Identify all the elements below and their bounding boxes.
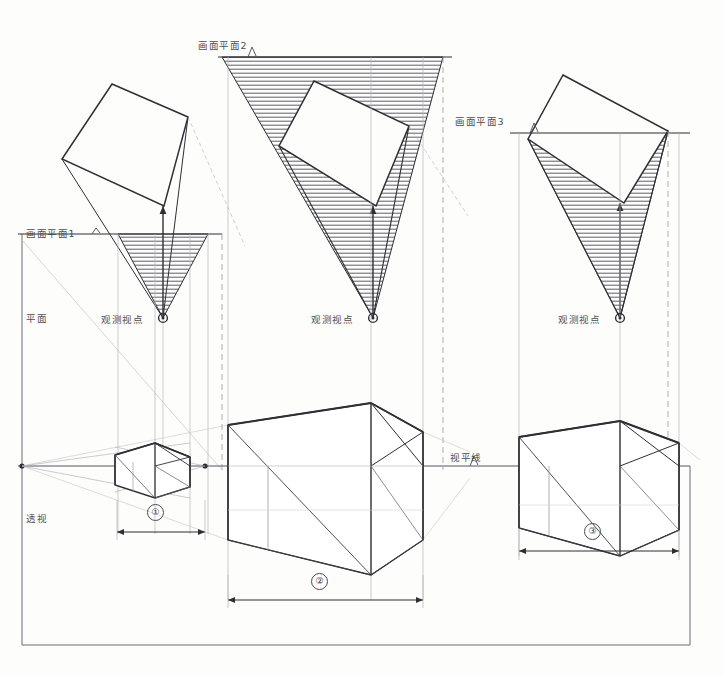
horizon-line-label: 视平线 [450,450,482,464]
viewpoint-label-1: 观测视点 [101,312,143,326]
viewpoint-label-3: 观测视点 [558,312,600,326]
dimension-number-2: ② [311,573,328,590]
plan-row-label: 平面 [26,311,47,325]
dimension-number-3: ③ [584,523,601,540]
perspective-box-1 [115,443,190,498]
perspective-row-label: 透视 [26,511,47,525]
picture-plane-2-label: 画面平面2 [198,38,247,52]
drawing-sheet: 画面平面1 画面平面2 画面平面3 观测视点 观测视点 观测视点 平面 透视 视… [0,0,724,676]
viewpoint-markers [159,314,625,323]
picture-plane-1-label: 画面平面1 [26,226,75,240]
viewpoint-label-2: 观测视点 [311,312,353,326]
plan-rectangle-1 [62,84,188,206]
picture-plane-3-label: 画面平面3 [455,114,504,128]
perspective-box-2 [228,403,423,575]
perspective-construction-diagram [0,0,724,676]
dimension-number-1: ① [147,504,164,521]
